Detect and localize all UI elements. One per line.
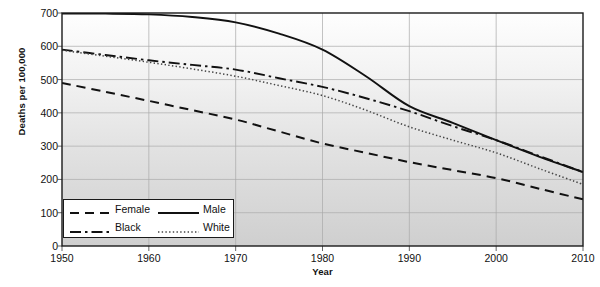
x-tick-label: 1990 [384,253,434,264]
legend-label: White [203,222,230,233]
x-tick-label: 1980 [298,253,348,264]
chart-legend: FemaleMaleBlackWhite [63,199,234,238]
legend-entry-male: Male [152,204,235,215]
legend-entry-female: Female [64,204,152,215]
legend-entry-black: Black [64,222,152,233]
x-tick-label: 2010 [558,253,600,264]
plot-area [0,0,600,287]
x-tick-label: 1960 [124,253,174,264]
x-tick-label: 1950 [37,253,87,264]
x-axis-title: Year [62,266,583,277]
legend-line-swatch [158,204,199,214]
legend-entry-white: White [152,222,235,233]
legend-line-swatch [70,204,111,214]
x-tick-label: 2000 [471,253,521,264]
legend-label: Female [115,204,150,215]
legend-label: Black [115,222,141,233]
legend-line-swatch [70,223,111,233]
chart-container: Deaths per 100,000 010020030040050060070… [0,0,600,287]
x-tick-label: 1970 [211,253,261,264]
legend-label: Male [203,204,226,215]
legend-line-swatch [158,223,199,233]
